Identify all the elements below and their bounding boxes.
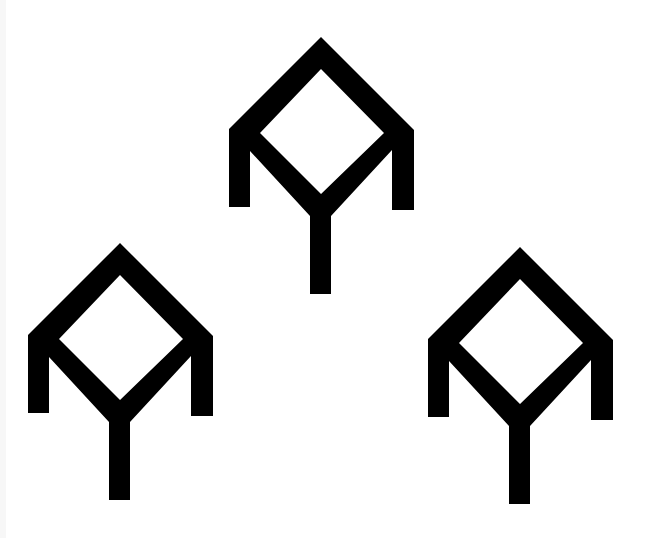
symbol-top	[229, 37, 414, 294]
symbols-canvas	[0, 0, 650, 538]
symbol-left	[28, 243, 213, 500]
diamond-tree-symbol-shape	[28, 243, 213, 500]
symbol-right	[428, 247, 613, 504]
diamond-tree-symbol-shape	[428, 247, 613, 504]
diamond-tree-symbol-shape	[229, 37, 414, 294]
